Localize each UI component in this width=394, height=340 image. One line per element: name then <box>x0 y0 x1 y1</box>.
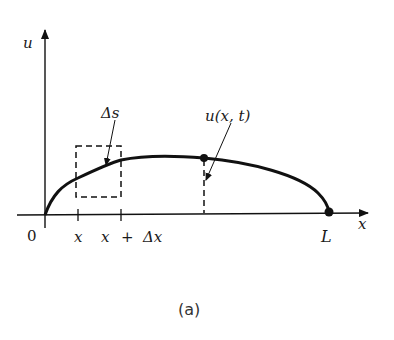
endpoint-L <box>325 208 334 217</box>
u-xt-pointer <box>206 123 231 180</box>
tick-x-plus-dx-plus: + <box>121 228 134 246</box>
end-L-label: L <box>320 227 332 246</box>
x-axis-label: x <box>358 215 367 233</box>
tick-x-plus-dx-delta: Δx <box>142 228 163 246</box>
x-axis <box>17 213 368 215</box>
tick-x-plus-dx-x: x <box>101 228 110 246</box>
tick-x-label: x <box>74 228 83 246</box>
delta-s-label: Δs <box>100 104 120 122</box>
delta-s-pointer <box>106 120 115 165</box>
u-xt-label: u(x, t) <box>205 107 251 125</box>
u-axis-label: u <box>23 34 33 52</box>
figure-caption: (a) <box>178 300 200 319</box>
origin-label: 0 <box>27 227 37 245</box>
delta-s-dashed-box <box>76 146 121 197</box>
string-curve <box>45 156 329 215</box>
string-displacement-diagram: u x 0 x x + Δx L Δs u(x, t) (a) <box>0 0 394 340</box>
sample-point <box>200 154 208 162</box>
